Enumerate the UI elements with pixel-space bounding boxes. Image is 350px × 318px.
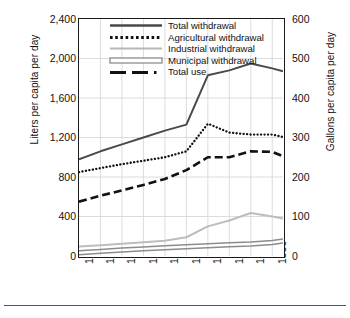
legend-label: Agricultural withdrawal [168, 32, 264, 44]
legend-item-industrial-withdrawal: Industrial withdrawal [109, 43, 283, 55]
y-axis-left-tick-2400: 2,400 [50, 14, 76, 25]
chart-figure: Liters per capita per day Gallons per ca… [0, 0, 350, 318]
y-axis-left-tick-2000: 2,000 [50, 53, 76, 64]
legend-swatch-dotted-icon [109, 32, 163, 43]
legend-swatch-solid-dark-icon [109, 20, 163, 31]
legend-label: Industrial withdrawal [168, 43, 255, 55]
y-axis-right-tick-0: 0 [292, 251, 298, 262]
footer-divider [4, 305, 346, 306]
y-axis-left-tick-1600: 1,600 [50, 93, 76, 104]
series-line-total-use [79, 151, 283, 201]
plot-area: Total withdrawalAgricultural withdrawalI… [78, 18, 285, 258]
y-axis-left-title: Liters per capita per day [29, 10, 40, 170]
y-axis-right-tick-600: 600 [292, 14, 310, 25]
y-axis-right-tick-300: 300 [292, 132, 310, 143]
legend-swatch-solid-light-icon [109, 43, 163, 54]
y-axis-right-title: Gallons per capita per day [325, 12, 336, 172]
legend-swatch-dash-dot-icon [109, 67, 163, 78]
legend-label: Municipal withdrawal [168, 55, 257, 67]
y-axis-right-tick-500: 500 [292, 53, 310, 64]
legend-item-municipal-withdrawal: Municipal withdrawal [109, 55, 283, 67]
y-axis-left-tick-0: 0 [70, 251, 76, 262]
legend-item-total-use: Total use [109, 66, 283, 78]
legend-label: Total use [168, 66, 206, 78]
y-axis-left-tick-1200: 1,200 [50, 132, 76, 143]
y-axis-left-tick-800: 800 [58, 172, 76, 183]
y-axis-right-tick-200: 200 [292, 172, 310, 183]
legend-label: Total withdrawal [168, 20, 236, 32]
y-axis-left-tick-400: 400 [58, 211, 76, 222]
y-axis-right-tick-400: 400 [292, 93, 310, 104]
y-axis-right-tick-100: 100 [292, 211, 310, 222]
legend-item-total-withdrawal: Total withdrawal [109, 20, 283, 32]
legend-item-agricultural-withdrawal: Agricultural withdrawal [109, 32, 283, 44]
legend-swatch-outlined-bar-icon [109, 55, 163, 66]
chart-legend: Total withdrawalAgricultural withdrawalI… [109, 20, 283, 78]
